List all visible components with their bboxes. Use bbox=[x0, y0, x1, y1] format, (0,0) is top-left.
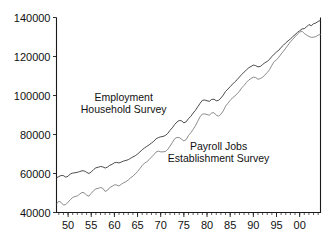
x-tick-label: 60 bbox=[108, 219, 120, 231]
x-tick-label: 80 bbox=[201, 219, 213, 231]
x-tick-label: 70 bbox=[155, 219, 167, 231]
establishment-survey-label-line: Payroll Jobs bbox=[190, 140, 247, 152]
y-tick-label: 140000 bbox=[14, 12, 51, 24]
x-tick-label: 50 bbox=[62, 219, 74, 231]
x-tick-label: 85 bbox=[224, 219, 236, 231]
chart-canvas: 400006000080000100000120000140000 505560… bbox=[0, 0, 331, 244]
y-tick-label: 80000 bbox=[20, 129, 51, 141]
household-survey-label-line: Employment bbox=[94, 91, 152, 103]
establishment-survey-label-line: Establishment Survey bbox=[168, 152, 270, 164]
y-tick-label: 60000 bbox=[20, 168, 51, 180]
x-tick-label: 00 bbox=[294, 219, 306, 231]
household-survey-label-line: Household Survey bbox=[81, 103, 168, 115]
x-tick-label: 95 bbox=[270, 219, 282, 231]
x-tick-label: 55 bbox=[85, 219, 97, 231]
x-tick-label: 65 bbox=[131, 219, 143, 231]
x-tick-label: 90 bbox=[247, 219, 259, 231]
y-tick-label: 120000 bbox=[14, 51, 51, 63]
y-tick-label: 40000 bbox=[20, 207, 51, 219]
employment-chart: 400006000080000100000120000140000 505560… bbox=[0, 0, 331, 244]
y-tick-label: 100000 bbox=[14, 90, 51, 102]
x-tick-label: 75 bbox=[178, 219, 190, 231]
